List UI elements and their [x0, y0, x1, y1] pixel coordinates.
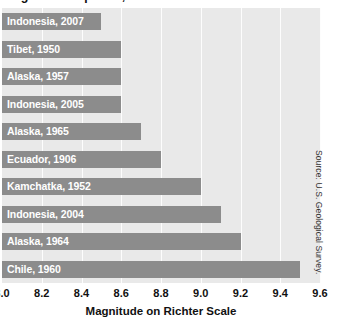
bar: Alaska, 1965 — [2, 123, 141, 140]
bar-row: Alaska, 1965 — [2, 118, 320, 146]
bar-row: Tibet, 1950 — [2, 36, 320, 64]
bar-label: Ecuador, 1906 — [7, 154, 76, 165]
x-tick-label: 8.0 — [0, 287, 10, 299]
x-tick-label: 8.2 — [34, 287, 49, 299]
source-note: Source: U.S. Geological Survey. — [314, 150, 324, 274]
bar-row: Indonesia, 2005 — [2, 91, 320, 119]
bar-row: Indonesia, 2004 — [2, 201, 320, 229]
bar-label: Alaska, 1957 — [7, 71, 69, 82]
x-axis-title: Magnitude on Richter Scale — [2, 305, 320, 317]
x-tick-label: 9.2 — [233, 287, 248, 299]
bar-label: Alaska, 1964 — [7, 236, 69, 247]
bar-label: Indonesia, 2007 — [7, 16, 84, 27]
plot-area: Indonesia, 2007Tibet, 1950Alaska, 1957In… — [2, 8, 320, 283]
bar: Tibet, 1950 — [2, 41, 121, 58]
bar-label: Indonesia, 2005 — [7, 99, 84, 110]
x-tick-label: 8.4 — [74, 287, 89, 299]
bar: Indonesia, 2004 — [2, 206, 221, 223]
bar-row: Indonesia, 2007 — [2, 8, 320, 36]
bar-row: Alaska, 1964 — [2, 228, 320, 256]
x-tick-label: 9.4 — [273, 287, 288, 299]
bar-row: Chile, 1960 — [2, 256, 320, 284]
bar-label: Chile, 1960 — [7, 264, 61, 275]
bar-label: Indonesia, 2004 — [7, 209, 84, 220]
bar: Ecuador, 1906 — [2, 151, 161, 168]
bar-row: Ecuador, 1906 — [2, 146, 320, 174]
bar: Chile, 1960 — [2, 261, 300, 278]
bar: Kamchatka, 1952 — [2, 178, 201, 195]
x-tick-label: 8.6 — [114, 287, 129, 299]
bar-label: Tibet, 1950 — [7, 44, 60, 55]
bar: Alaska, 1957 — [2, 68, 121, 85]
bar-label: Kamchatka, 1952 — [7, 181, 91, 192]
x-tick-label: 9.0 — [193, 287, 208, 299]
bar: Alaska, 1964 — [2, 233, 241, 250]
bar-row: Kamchatka, 1952 — [2, 173, 320, 201]
bar: Indonesia, 2005 — [2, 96, 121, 113]
bar-row: Alaska, 1957 — [2, 63, 320, 91]
bar: Indonesia, 2007 — [2, 13, 101, 30]
x-tick-label: 9.6 — [312, 287, 327, 299]
x-tick-label: 8.8 — [153, 287, 168, 299]
x-axis: 8.08.28.48.68.89.09.29.49.6 — [2, 287, 320, 301]
bar-label: Alaska, 1965 — [7, 126, 69, 137]
chart-title: Largest Earthquakes, 1900-2008 — [2, 0, 302, 5]
earthquake-magnitude-bar-chart: Largest Earthquakes, 1900-2008 Indonesia… — [0, 0, 346, 327]
